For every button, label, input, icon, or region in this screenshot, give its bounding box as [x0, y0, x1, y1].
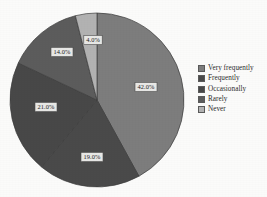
legend-color-swatch	[198, 65, 205, 72]
slice-percentage-label: 19.0%	[83, 153, 101, 160]
chart-legend: Very frequentlyFrequentlyOccasionallyRar…	[198, 64, 266, 115]
legend-item[interactable]: Very frequently	[198, 64, 266, 74]
legend-color-swatch	[198, 75, 205, 82]
legend-item-label: Frequently	[208, 74, 240, 83]
slice-percentage-label: 4.0%	[86, 36, 100, 43]
legend-item-label: Never	[208, 105, 226, 114]
legend-item[interactable]: Rarely	[198, 95, 266, 105]
legend-item[interactable]: Occasionally	[198, 84, 266, 94]
slice-percentage-label: 21.0%	[37, 103, 55, 110]
slice-percentage-label: 42.0%	[137, 83, 155, 90]
legend-item-label: Rarely	[208, 95, 227, 104]
legend-item-label: Very frequently	[208, 64, 254, 73]
legend-item[interactable]: Frequently	[198, 74, 266, 84]
legend-color-swatch	[198, 106, 205, 113]
legend-color-swatch	[198, 96, 205, 103]
slice-percentage-label: 14.0%	[53, 48, 71, 55]
legend-color-swatch	[198, 86, 205, 93]
legend-item-label: Occasionally	[208, 85, 246, 94]
pie-chart-figure: 42.0%19.0%21.0%14.0%4.0% Very frequently…	[0, 0, 267, 197]
legend-item[interactable]: Never	[198, 105, 266, 115]
